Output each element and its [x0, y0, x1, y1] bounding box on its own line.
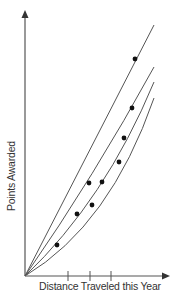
line-chart: [0, 0, 177, 298]
series-line-2: [25, 67, 154, 276]
data-point: [55, 243, 60, 248]
data-point: [117, 160, 122, 165]
x-axis-arrow-icon: [162, 273, 170, 280]
x-axis-label: Distance Traveled this Year: [30, 280, 170, 292]
data-point: [133, 57, 138, 62]
y-axis-label: Points Awarded: [5, 121, 17, 231]
data-point: [87, 181, 92, 186]
y-axis-arrow-icon: [22, 10, 29, 18]
data-point: [90, 203, 95, 208]
data-point: [122, 136, 127, 141]
data-point: [100, 180, 105, 185]
data-point: [130, 106, 135, 111]
series-line-1: [25, 25, 154, 276]
data-point: [75, 212, 80, 217]
